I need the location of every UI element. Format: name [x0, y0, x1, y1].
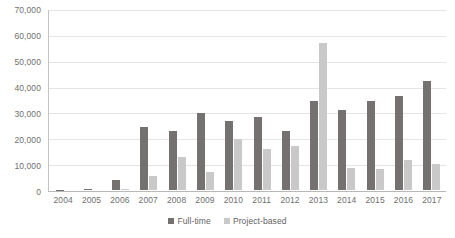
y-axis-tick-label: 50,000 — [14, 57, 41, 67]
bar-full-time[interactable] — [254, 117, 262, 190]
x-axis-tick-label: 2015 — [361, 195, 389, 205]
y-axis-tick-label: 40,000 — [14, 83, 41, 93]
bar-full-time[interactable] — [140, 127, 148, 190]
bar-group — [50, 10, 78, 190]
bar-group — [276, 10, 304, 190]
bar-full-time[interactable] — [169, 131, 177, 190]
bar-groups — [50, 10, 446, 190]
x-axis: 2004200520062007200820092010201120122013… — [49, 195, 446, 205]
bar-group — [220, 10, 248, 190]
y-axis-tick-label: 70,000 — [14, 5, 41, 15]
bar-group — [333, 10, 361, 190]
x-axis-tick-label: 2011 — [248, 195, 276, 205]
legend-swatch-icon — [224, 218, 230, 224]
bar-full-time[interactable] — [310, 101, 318, 190]
bar-project-based[interactable] — [206, 172, 214, 190]
legend-item-label: Full-time — [177, 216, 211, 226]
bar-project-based[interactable] — [234, 139, 242, 190]
bar-group — [191, 10, 219, 190]
bar-project-based[interactable] — [263, 149, 271, 190]
plot-area — [48, 10, 446, 192]
bar-project-based[interactable] — [178, 157, 186, 190]
bar-project-based[interactable] — [347, 168, 355, 190]
x-axis-tick-label: 2010 — [219, 195, 247, 205]
x-axis-tick-label: 2006 — [106, 195, 134, 205]
bar-project-based[interactable] — [291, 146, 299, 190]
y-axis-tick-label: 60,000 — [14, 31, 41, 41]
bar-project-based[interactable] — [319, 43, 327, 190]
bar-project-based[interactable] — [432, 164, 440, 190]
bar-full-time[interactable] — [395, 96, 403, 190]
bar-full-time[interactable] — [112, 180, 120, 190]
legend-swatch-icon — [168, 218, 174, 224]
legend-item[interactable]: Project-based — [224, 216, 287, 226]
x-axis-tick-label: 2013 — [304, 195, 332, 205]
bar-group — [389, 10, 417, 190]
y-axis: 010,00020,00030,00040,00050,00060,00070,… — [0, 10, 44, 192]
bar-group — [361, 10, 389, 190]
bar-group — [305, 10, 333, 190]
y-axis-tick-label: 20,000 — [14, 135, 41, 145]
x-axis-tick-label: 2016 — [389, 195, 417, 205]
bar-chart: 010,00020,00030,00040,00050,00060,00070,… — [0, 0, 455, 238]
x-axis-tick-label: 2017 — [418, 195, 446, 205]
bar-full-time[interactable] — [338, 110, 346, 190]
bar-group — [163, 10, 191, 190]
bar-full-time[interactable] — [84, 189, 92, 190]
legend-item-label: Project-based — [233, 216, 287, 226]
y-axis-tick-label: 10,000 — [14, 161, 41, 171]
bar-project-based[interactable] — [404, 160, 412, 190]
bar-group — [78, 10, 106, 190]
x-axis-tick-label: 2005 — [77, 195, 105, 205]
bar-group — [107, 10, 135, 190]
bar-group — [418, 10, 446, 190]
bar-full-time[interactable] — [197, 113, 205, 190]
x-axis-tick-label: 2007 — [134, 195, 162, 205]
bar-full-time[interactable] — [367, 101, 375, 190]
chart-legend: Full-timeProject-based — [0, 216, 455, 226]
bar-project-based[interactable] — [121, 189, 129, 190]
x-axis-tick-label: 2009 — [191, 195, 219, 205]
y-axis-tick-label: 0 — [36, 187, 41, 197]
bar-full-time[interactable] — [423, 81, 431, 190]
bar-full-time[interactable] — [282, 131, 290, 190]
x-axis-tick-label: 2004 — [49, 195, 77, 205]
bar-full-time[interactable] — [225, 121, 233, 190]
plot-wrapper — [48, 10, 446, 192]
bar-group — [135, 10, 163, 190]
x-axis-tick-label: 2008 — [162, 195, 190, 205]
bar-project-based[interactable] — [149, 176, 157, 190]
bar-project-based[interactable] — [376, 169, 384, 190]
x-axis-tick-label: 2014 — [333, 195, 361, 205]
y-axis-tick-label: 30,000 — [14, 109, 41, 119]
bar-group — [248, 10, 276, 190]
legend-item[interactable]: Full-time — [168, 216, 211, 226]
x-axis-tick-label: 2012 — [276, 195, 304, 205]
